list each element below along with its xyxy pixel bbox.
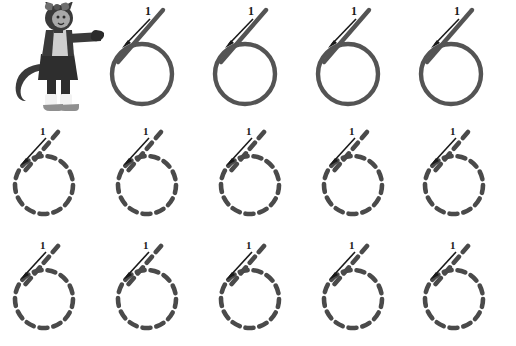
mascot-face (52, 10, 70, 28)
worksheet-row-trace-2: 1 1 (0, 232, 516, 346)
stroke-order-label: 1 (349, 239, 355, 251)
digit-six-dashed[interactable]: 1 (412, 232, 516, 346)
digit-stroke-circle (215, 44, 275, 104)
stroke-arrow-1 (123, 252, 149, 280)
mascot-sock-left (45, 94, 57, 106)
stroke-arrow-1 (430, 252, 456, 280)
mascot-eye-right (63, 16, 66, 19)
mascot-hand (91, 30, 104, 41)
tracing-worksheet: 1 1 (0, 0, 516, 346)
digit-stroke-diagonal (230, 246, 264, 286)
stroke-order-label: 1 (450, 239, 456, 251)
digit-stroke-circle (221, 270, 279, 328)
digit-six-dashed[interactable]: 1 (208, 118, 312, 232)
stroke-arrow-1 (226, 138, 252, 166)
stroke-order-label: 1 (143, 239, 149, 251)
digit-stroke-circle (425, 156, 483, 214)
digit-six-solid: 1 (207, 0, 311, 114)
stroke-order-label: 1 (40, 125, 46, 137)
digit-stroke-circle (421, 44, 481, 104)
mascot-bow-left (45, 2, 53, 10)
digit-stroke-circle (318, 44, 378, 104)
stroke-arrow-1 (20, 252, 46, 280)
mascot-eye-left (57, 16, 60, 19)
digit-stroke-circle (112, 44, 172, 104)
digit-stroke-circle (324, 270, 382, 328)
digit-stroke-circle (118, 156, 176, 214)
digit-stroke-diagonal (333, 246, 367, 286)
stroke-order-label: 1 (246, 239, 252, 251)
digit-six-solid: 1 (413, 0, 516, 114)
digit-six-dashed[interactable]: 1 (208, 232, 312, 346)
digit-stroke-diagonal (24, 246, 58, 286)
mascot-bow-knot (54, 4, 60, 10)
stroke-arrow-1 (329, 252, 355, 280)
digit-stroke-circle (118, 270, 176, 328)
worksheet-row-example: 1 1 (0, 0, 516, 118)
digit-six-dashed[interactable]: 1 (311, 232, 415, 346)
stroke-order-label: 1 (145, 4, 151, 18)
mascot-bow-right (61, 2, 69, 10)
mascot-shoe-right (58, 104, 79, 111)
digit-six-solid: 1 (104, 0, 208, 114)
digit-stroke-circle (221, 156, 279, 214)
digit-six-solid: 1 (310, 0, 414, 114)
digit-stroke-diagonal (127, 246, 161, 286)
digit-stroke-diagonal (221, 10, 266, 62)
stroke-order-label: 1 (450, 125, 456, 137)
digit-six-dashed[interactable]: 1 (105, 232, 209, 346)
mascot-shirt-shadow (42, 30, 54, 56)
digit-stroke-diagonal (127, 132, 161, 172)
worksheet-row-trace-1: 1 1 (0, 118, 516, 232)
digit-stroke-circle (324, 156, 382, 214)
digit-stroke-circle (15, 270, 73, 328)
digit-stroke-circle (15, 156, 73, 214)
digit-stroke-circle (425, 270, 483, 328)
stroke-arrow-1 (226, 252, 252, 280)
mascot-cat-character (8, 2, 104, 116)
stroke-order-label: 1 (246, 125, 252, 137)
digit-stroke-diagonal (333, 132, 367, 172)
digit-six-dashed[interactable]: 1 (105, 118, 209, 232)
mascot-skirt (38, 54, 78, 80)
stroke-order-label: 1 (143, 125, 149, 137)
stroke-order-label: 1 (248, 4, 254, 18)
digit-stroke-diagonal (434, 246, 468, 286)
stroke-arrow-1 (329, 138, 355, 166)
stroke-arrow-1 (20, 138, 46, 166)
stroke-arrow-1 (123, 138, 149, 166)
stroke-order-label: 1 (454, 4, 460, 18)
digit-six-dashed[interactable]: 1 (2, 118, 106, 232)
stroke-order-label: 1 (351, 4, 357, 18)
stroke-order-label: 1 (349, 125, 355, 137)
digit-stroke-diagonal (434, 132, 468, 172)
digit-stroke-diagonal (324, 10, 369, 62)
digit-six-dashed[interactable]: 1 (412, 118, 516, 232)
digit-stroke-diagonal (427, 10, 472, 62)
stroke-order-label: 1 (40, 239, 46, 251)
digit-stroke-diagonal (118, 10, 163, 62)
digit-six-dashed[interactable]: 1 (2, 232, 106, 346)
digit-stroke-diagonal (24, 132, 58, 172)
stroke-arrow-1 (430, 138, 456, 166)
digit-stroke-diagonal (230, 132, 264, 172)
digit-six-dashed[interactable]: 1 (311, 118, 415, 232)
